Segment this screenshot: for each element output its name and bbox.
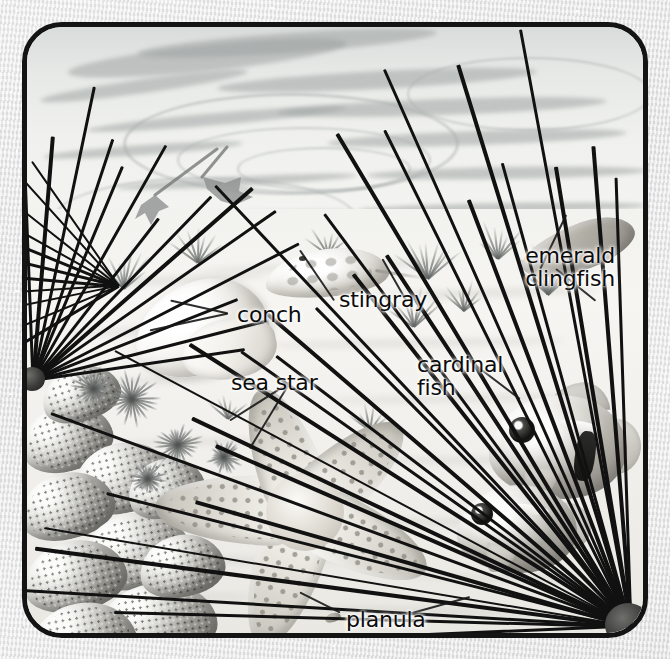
seagrass-clump: [427, 233, 429, 279]
illustration-frame: conchstingraysea starcardinal fishemeral…: [22, 22, 648, 638]
illustration-page: conchstingraysea starcardinal fishemeral…: [0, 0, 670, 659]
feather-duster-worm: [147, 479, 149, 481]
label-conch: conch: [237, 303, 302, 326]
label-sea-star: sea star: [231, 371, 318, 394]
seagrass-clump: [497, 219, 499, 259]
label-emerald-clingfish: emerald clingfish: [525, 244, 615, 291]
feather-duster-worm: [93, 389, 95, 391]
label-stingray: stingray: [339, 288, 427, 311]
reef-scene: conchstingraysea starcardinal fishemeral…: [27, 27, 643, 633]
label-cardinal-fish: cardinal fish: [417, 353, 503, 400]
label-planula: planula: [346, 608, 426, 631]
feather-duster-worm: [131, 399, 133, 401]
